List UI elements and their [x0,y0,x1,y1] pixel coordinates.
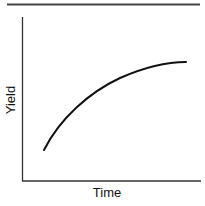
yield-curve [44,62,186,150]
yield-vs-time-chart: Time Yield [0,0,205,206]
y-axis-label: Yield [3,86,18,114]
x-axis-label: Time [93,185,121,200]
